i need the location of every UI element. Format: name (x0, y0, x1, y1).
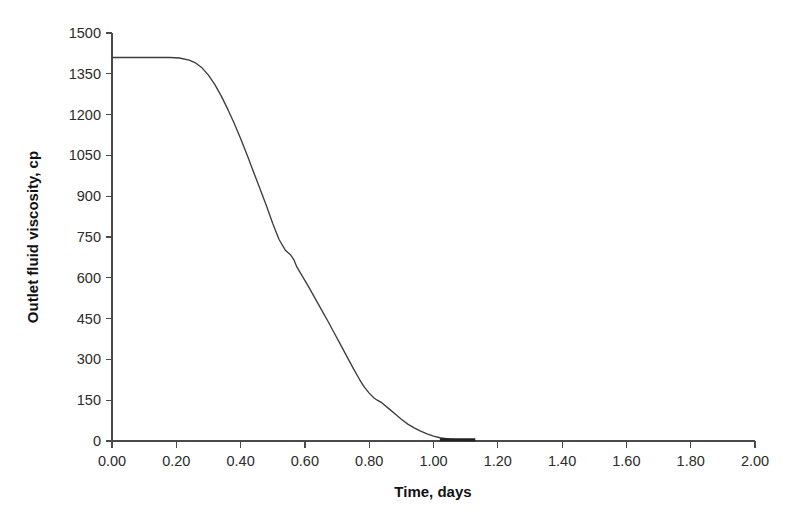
y-tick-label: 0 (93, 433, 101, 449)
x-axis-tick-labels: 0.000.200.400.600.801.001.201.401.601.80… (98, 453, 769, 469)
y-tick-label: 150 (77, 392, 101, 408)
y-tick-label: 1050 (69, 147, 101, 163)
x-axis-title: Time, days (394, 483, 471, 500)
y-tick-label: 300 (77, 351, 101, 367)
x-tick-label: 1.20 (484, 453, 512, 469)
x-tick-label: 0.40 (226, 453, 254, 469)
x-tick-label: 1.80 (677, 453, 705, 469)
series-line-viscosity (112, 57, 475, 440)
data-series-group (112, 57, 475, 440)
x-axis-ticks (112, 441, 755, 448)
y-tick-label: 900 (77, 188, 101, 204)
x-tick-label: 1.60 (612, 453, 640, 469)
y-axis-ticks (106, 33, 112, 441)
x-tick-label: 0.00 (98, 453, 126, 469)
y-tick-label: 1500 (69, 25, 101, 41)
x-tick-label: 0.80 (355, 453, 383, 469)
y-tick-label: 1200 (69, 107, 101, 123)
y-tick-label: 450 (77, 311, 101, 327)
y-tick-label: 750 (77, 229, 101, 245)
x-tick-label: 0.20 (162, 453, 190, 469)
x-tick-label: 0.60 (291, 453, 319, 469)
chart-figure: 01503004506007509001050120013501500 0.00… (0, 0, 792, 525)
x-tick-label: 1.40 (548, 453, 576, 469)
y-tick-label: 600 (77, 270, 101, 286)
y-axis-tick-labels: 01503004506007509001050120013501500 (69, 25, 101, 449)
y-tick-label: 1350 (69, 66, 101, 82)
chart-plot-area: 01503004506007509001050120013501500 0.00… (0, 0, 792, 525)
x-tick-label: 2.00 (741, 453, 769, 469)
x-tick-label: 1.00 (419, 453, 447, 469)
y-axis-group: 01503004506007509001050120013501500 (69, 25, 112, 449)
x-axis-group: 0.000.200.400.600.801.001.201.401.601.80… (98, 441, 769, 469)
y-axis-title: Outlet fluid viscosity, cp (24, 151, 41, 323)
